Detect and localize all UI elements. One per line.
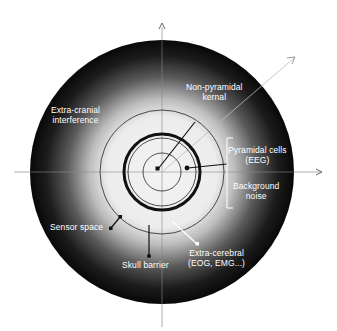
label-pyramidal: Pyramidal cells (EEG) [228, 145, 287, 165]
label-sensor-space: Sensor space [50, 222, 103, 232]
label-skull-barrier: Skull barrier [122, 260, 169, 270]
diagram-canvas [0, 0, 337, 331]
label-line: kernal [186, 92, 243, 102]
label-line: Skull barrier [122, 260, 169, 270]
label-line: interference [51, 115, 100, 125]
label-extra-cerebral: Extra-cerebral (EOG, EMG...) [188, 248, 245, 268]
label-line: Pyramidal cells [228, 145, 287, 155]
label-line: (EOG, EMG...) [188, 258, 245, 268]
label-line: Sensor space [50, 222, 103, 232]
marker-sensor-1 [119, 215, 123, 219]
label-background: Background noise [233, 181, 279, 201]
label-line: (EEG) [228, 155, 287, 165]
marker-non-pyramidal [156, 167, 160, 171]
label-line: Non-pyramidal [186, 82, 243, 92]
label-line: noise [233, 191, 279, 201]
label-extra-cranial: Extra-cranial interference [51, 105, 100, 125]
label-line: Background [233, 181, 279, 191]
label-line: Extra-cerebral [188, 248, 245, 258]
marker-sensor-2 [109, 227, 113, 231]
marker-extra-cerebral [196, 242, 200, 246]
marker-pyramidal [185, 166, 190, 171]
label-line: Extra-cranial [51, 105, 100, 115]
marker-skull [147, 254, 151, 258]
label-non-pyramidal: Non-pyramidal kernal [186, 82, 243, 102]
